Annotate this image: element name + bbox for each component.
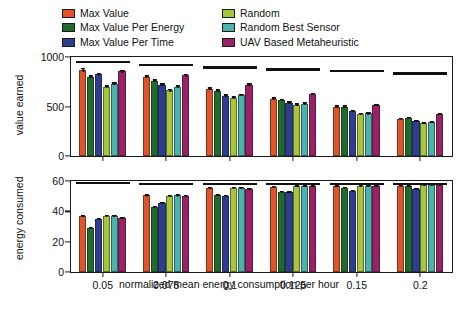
reference-line — [203, 66, 257, 68]
bar — [111, 216, 118, 272]
bar — [103, 216, 110, 272]
y-axis-tick-mark — [65, 106, 70, 107]
error-bar-cap — [160, 83, 164, 84]
bar — [341, 107, 348, 157]
bar — [278, 100, 285, 156]
error-bar-cap — [208, 187, 212, 188]
x-axis-tick-mark — [102, 272, 103, 277]
bar — [238, 188, 245, 272]
legend-swatch-icon — [62, 23, 75, 32]
legend-swatch-icon — [62, 38, 75, 47]
y-axis-tick-label: 40 — [28, 205, 64, 217]
bar — [214, 195, 221, 272]
error-bar-cap — [81, 215, 85, 216]
bar — [166, 196, 173, 272]
reference-line — [393, 183, 447, 185]
reference-line — [139, 64, 193, 66]
bar — [103, 87, 110, 156]
bar — [95, 219, 102, 272]
error-bar-cap — [247, 188, 251, 189]
error-bar-cap — [120, 217, 124, 218]
bar — [420, 123, 427, 156]
reference-line — [76, 61, 130, 63]
error-bar-cap — [184, 195, 188, 196]
error-bar-cap — [272, 186, 276, 187]
bar — [143, 77, 150, 156]
bar — [365, 186, 372, 272]
error-bar-cap — [351, 110, 355, 111]
legend-item: Max Value Per Time — [62, 37, 222, 48]
error-bar-cap — [184, 74, 188, 75]
bar — [349, 111, 356, 156]
reference-line — [393, 72, 447, 74]
error-bar-cap — [152, 206, 156, 207]
y-axis-tick-label: 0 — [28, 150, 64, 162]
bar — [333, 186, 340, 272]
bar — [222, 196, 229, 272]
bar — [357, 186, 364, 272]
error-bar-cap — [406, 117, 410, 118]
bar — [372, 105, 379, 156]
x-axis-tick-mark — [229, 272, 230, 277]
legend-swatch-icon — [222, 38, 235, 47]
bar — [111, 84, 118, 156]
reference-line — [203, 183, 257, 185]
bar — [412, 121, 419, 156]
legend-swatch-icon — [222, 9, 235, 18]
error-bar-cap — [359, 113, 363, 114]
reference-line — [266, 183, 320, 185]
bar — [158, 203, 165, 272]
error-bar-cap — [351, 190, 355, 191]
energy-consumed-panel: energy consumed 0204060 0.050.0750.10.12… — [0, 172, 458, 284]
error-bar-cap — [216, 89, 220, 90]
bar — [309, 94, 316, 156]
legend-label: Random — [240, 8, 280, 19]
x-axis-tick-mark — [356, 156, 357, 161]
bar — [405, 186, 412, 272]
reference-line — [330, 70, 384, 72]
bar — [151, 81, 158, 156]
error-bar-cap — [160, 202, 164, 203]
y-axis-tick-label: 60 — [28, 175, 64, 187]
error-bar-cap — [279, 191, 283, 192]
legend-item: Random Best Sensor — [222, 22, 392, 33]
bar — [222, 96, 229, 156]
bar — [151, 207, 158, 272]
error-bar-cap — [208, 87, 212, 88]
value-earned-panel: value earned 05001000 — [0, 48, 458, 170]
error-bar-cap — [176, 194, 180, 195]
bar — [365, 113, 372, 156]
bar — [405, 118, 412, 156]
error-bar-cap — [399, 118, 403, 119]
y-axis-tick-mark — [65, 211, 70, 212]
bar — [143, 195, 150, 272]
x-axis-tick-mark — [420, 272, 421, 277]
legend-item: Random — [222, 8, 392, 19]
error-bar-cap — [232, 96, 236, 97]
error-bar-cap — [216, 194, 220, 195]
bar — [293, 105, 300, 156]
bar — [79, 70, 86, 156]
error-bar-cap — [89, 227, 93, 228]
bar — [270, 99, 277, 156]
error-bar-cap — [287, 191, 291, 192]
error-bar-cap — [145, 194, 149, 195]
error-bar-cap — [422, 122, 426, 123]
bar — [397, 119, 404, 156]
legend-label: Random Best Sensor — [240, 22, 340, 33]
bar — [230, 98, 237, 156]
y-axis-tick-label: 0 — [28, 266, 64, 278]
error-bar-cap — [232, 187, 236, 188]
error-bar-cap — [105, 85, 109, 86]
bar — [372, 186, 379, 272]
bar — [357, 114, 364, 156]
error-bar-cap — [311, 93, 315, 94]
error-bar-cap — [168, 89, 172, 90]
bar — [245, 189, 252, 272]
error-bar-cap — [287, 101, 291, 102]
reference-line — [330, 183, 384, 185]
bar — [301, 186, 308, 272]
error-bar-cap — [224, 195, 228, 196]
error-bar-cap — [168, 195, 172, 196]
error-bar-cap — [366, 112, 370, 113]
